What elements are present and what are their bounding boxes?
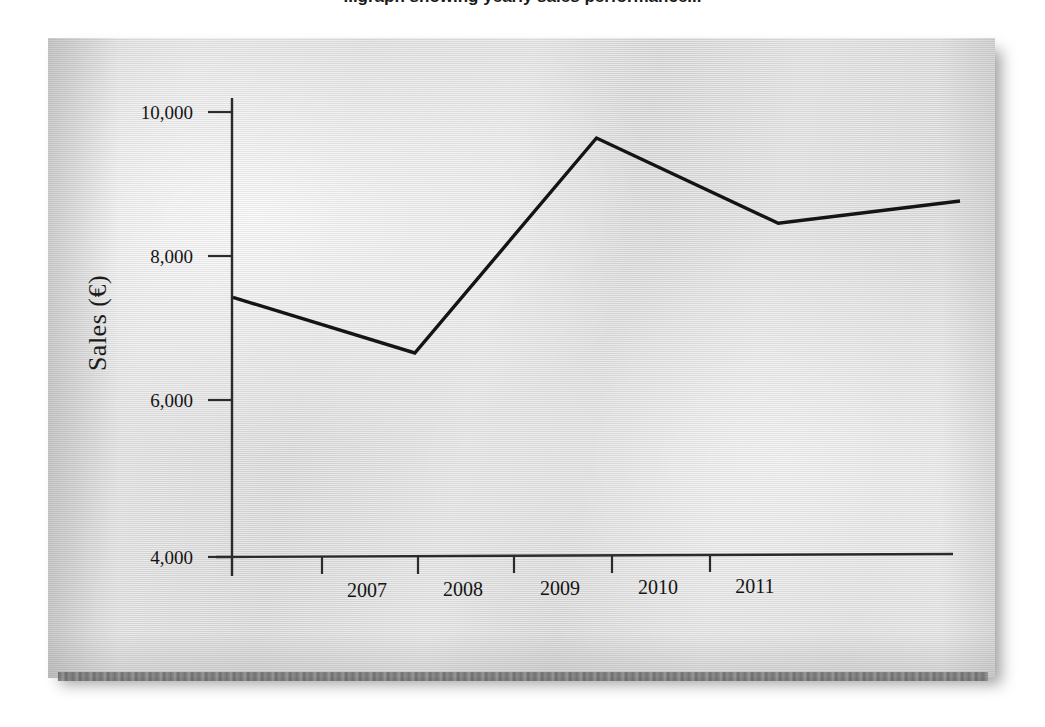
x-tick-label-2011: 2011 [700, 575, 810, 598]
x-tick-label-2009: 2009 [505, 577, 615, 600]
y-tick-label-8000: 8,000 [83, 246, 193, 268]
clipped-page-heading: ...graph showing yearly sales performanc… [0, 0, 1045, 9]
sales-data-line [233, 138, 960, 353]
x-tick-label-2010: 2010 [603, 576, 713, 599]
line-chart: Sales (€) 10,000 8,000 6,000 4,000 [48, 38, 995, 678]
y-tick-label-10000: 10,000 [83, 102, 193, 124]
y-tick-label-6000: 6,000 [83, 390, 193, 412]
y-tick-label-4000: 4,000 [83, 547, 193, 569]
x-axis-line [216, 554, 953, 557]
scanned-paper-sheet: Sales (€) 10,000 8,000 6,000 4,000 [48, 38, 995, 678]
x-tick-label-2008: 2008 [408, 578, 518, 601]
x-tick-label-2007: 2007 [312, 579, 422, 602]
